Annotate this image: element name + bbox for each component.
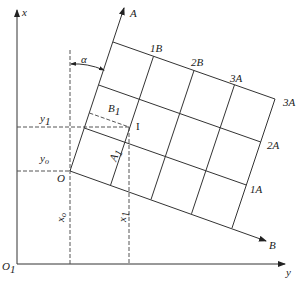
a-axis-label: A xyxy=(129,7,137,19)
alpha-arc xyxy=(71,64,104,70)
origin-o-label: O xyxy=(57,172,65,184)
grid-label-1b: 1B xyxy=(150,42,163,54)
grid-label-3a-top: 3A xyxy=(229,72,243,84)
x1-label: x1 xyxy=(116,212,131,223)
coordinate-rotation-diagram: x y O1 A B O α 1B 2B 3A 3A 2A 1A I B1 A1… xyxy=(0,0,300,281)
yo-label: yo xyxy=(39,152,49,166)
rotated-axes xyxy=(70,8,266,241)
b1-dashed-line xyxy=(89,113,129,127)
origin-o1-label: O1 xyxy=(2,260,15,275)
a-axis xyxy=(70,8,124,171)
grid xyxy=(84,42,275,228)
x-axis-label: x xyxy=(21,6,27,18)
grid-label-2a: 2A xyxy=(267,139,280,151)
alpha-label: α xyxy=(81,53,87,65)
cell-b1-label: B1 xyxy=(108,102,120,117)
xo-label: xo xyxy=(54,213,68,223)
point-i-label: I xyxy=(136,120,140,132)
grid-label-2b: 2B xyxy=(191,56,204,68)
y1-label: y1 xyxy=(39,112,50,127)
grid-label-1a: 1A xyxy=(250,183,263,195)
y-axis-label: y xyxy=(285,266,291,278)
grid-label-3a-right: 3A xyxy=(282,96,296,108)
b-axis-label: B xyxy=(269,239,276,251)
